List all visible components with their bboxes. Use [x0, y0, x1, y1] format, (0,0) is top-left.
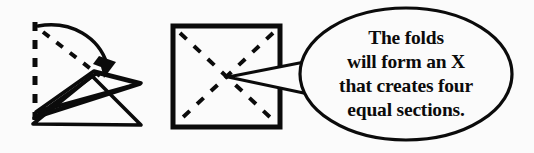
callout-line-2: will form an X [347, 51, 465, 72]
illustration-canvas: The folds will form an X that creates fo… [0, 0, 534, 153]
fold-direction-arrow [38, 25, 116, 78]
callout-line-3: that creates four [339, 75, 473, 96]
fold-arrow-arc [38, 25, 107, 64]
folded-paper-panel [33, 22, 141, 125]
speech-bubble-seam-mask [314, 58, 340, 92]
paper-folding-illustration: The folds will form an X that creates fo… [0, 0, 534, 153]
callout-line-1: The folds [368, 27, 444, 48]
callout-line-4: equal sections. [347, 99, 465, 120]
folded-sheet-layers [33, 71, 141, 125]
